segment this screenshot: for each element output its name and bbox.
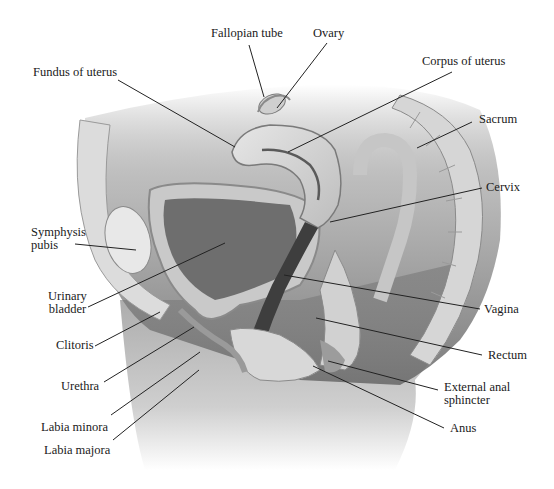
label-external-anal-sphincter: External anal sphincter [444, 381, 510, 407]
label-symphysis-line2: pubis [31, 239, 86, 252]
label-sphincter-line2: sphincter [444, 394, 510, 407]
label-cervix: Cervix [486, 181, 520, 194]
label-vagina: Vagina [484, 303, 519, 316]
label-clitoris: Clitoris [56, 339, 94, 352]
label-bladder-line2: bladder [48, 303, 87, 316]
label-corpus-of-uterus: Corpus of uterus [422, 55, 505, 68]
label-labia-majora: Labia majora [44, 444, 110, 457]
label-symphysis-pubis: Symphysis pubis [31, 226, 86, 252]
label-labia-minora: Labia minora [41, 421, 108, 434]
label-sacrum: Sacrum [479, 113, 517, 126]
label-anus: Anus [450, 422, 476, 435]
label-rectum: Rectum [488, 349, 527, 362]
label-urinary-bladder: Urinary bladder [48, 290, 87, 316]
label-ovary: Ovary [313, 27, 344, 40]
label-fallopian-tube: Fallopian tube [211, 27, 283, 40]
label-fundus-of-uterus: Fundus of uterus [33, 66, 117, 79]
label-urethra: Urethra [61, 380, 99, 393]
